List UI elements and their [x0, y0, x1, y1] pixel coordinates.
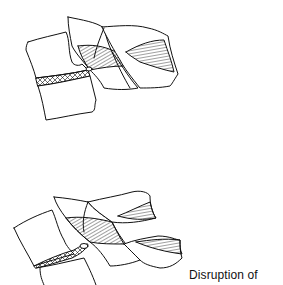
spine-segment-drawing-bottom	[0, 140, 283, 285]
figure-top-intact-segment	[0, 0, 283, 140]
caption-text: Disruption of	[189, 268, 258, 282]
figure-bottom-disrupted-segment	[0, 140, 283, 285]
spine-segment-drawing-top	[0, 0, 283, 140]
